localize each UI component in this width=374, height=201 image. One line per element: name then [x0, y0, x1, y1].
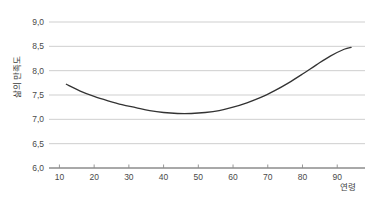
x-axis-tick-label: 90 [332, 172, 342, 182]
y-axis-tick-label: 8,5 [32, 41, 44, 51]
x-axis-tick-label: 50 [194, 172, 204, 182]
x-axis-tick-label: 20 [89, 172, 99, 182]
x-axis-tick-label: 10 [55, 172, 65, 182]
y-axis-tick-label: 9,0 [32, 17, 44, 27]
x-axis-title: 연령 [340, 182, 356, 192]
x-axis-tick-label: 40 [159, 172, 169, 182]
y-axis-tick-label: 6,5 [32, 139, 44, 149]
chart-background [0, 0, 374, 201]
y-axis-tick-label: 7,0 [32, 114, 44, 124]
chart-container: 6,06,57,07,58,08,59,0 102030405060708090… [0, 0, 374, 201]
y-axis-title: 삶의 만족도 [12, 56, 22, 98]
x-axis-tick-label: 70 [263, 172, 273, 182]
line-chart: 6,06,57,07,58,08,59,0 102030405060708090… [0, 0, 374, 201]
x-axis-tick-labels: 102030405060708090 [55, 172, 343, 182]
x-axis-tick-label: 80 [298, 172, 308, 182]
y-axis-tick-label: 7,5 [32, 90, 44, 100]
x-axis-tick-label: 30 [124, 172, 134, 182]
y-axis-tick-label: 6,0 [32, 163, 44, 173]
x-axis-tick-label: 60 [228, 172, 238, 182]
y-axis-tick-label: 8,0 [32, 66, 44, 76]
